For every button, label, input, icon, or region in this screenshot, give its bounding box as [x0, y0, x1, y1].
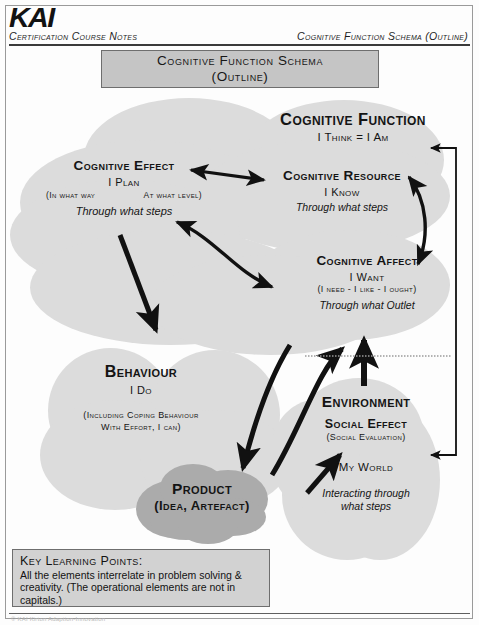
cognitive-resource-italic: Through what steps	[262, 201, 422, 214]
arrow-behaviour-product	[243, 345, 290, 468]
environment-my-world: My World	[292, 460, 440, 474]
connector-layer	[0, 0, 479, 625]
cognitive-resource-head: Cognitive Resource	[262, 168, 422, 184]
cognitive-affect-head: Cognitive Affect	[288, 253, 446, 269]
environment-italic-line-2: what steps	[292, 500, 440, 513]
cognitive-function-sub: I Think = I Am	[258, 130, 448, 144]
node-cognitive-effect: Cognitive Effect I Plan (In what way At …	[44, 158, 204, 218]
behaviour-sub: I Do	[58, 383, 224, 397]
cognitive-affect-italic: Through what Outlet	[288, 299, 446, 312]
environment-italic-line-1: Interacting through	[292, 487, 440, 500]
behaviour-paren-line-1: (Including Coping Behaviour	[58, 410, 224, 422]
arrow-effect-behaviour	[120, 235, 156, 330]
environment-social-effect: Social Effect	[292, 416, 440, 432]
footer-rule	[9, 613, 470, 614]
key-learning-points-title: Key Learning Points:	[20, 554, 263, 568]
node-environment: Environment Social Effect (Social Evalua…	[292, 392, 440, 513]
key-learning-points-body: All the elements interrelate in problem …	[20, 569, 263, 606]
environment-head: Environment	[292, 392, 440, 411]
cognitive-effect-sub: I Plan	[44, 175, 204, 189]
cognitive-resource-sub: I Know	[262, 185, 422, 199]
node-cognitive-affect: Cognitive Affect I Want (I need - I like…	[288, 253, 446, 312]
cognitive-effect-paren-left: (In what way	[46, 190, 95, 201]
cognitive-effect-head: Cognitive Effect	[44, 158, 204, 174]
cognitive-affect-paren: (I need - I like - I ought)	[288, 284, 446, 296]
arrow-effect-affect	[177, 222, 272, 287]
cognitive-effect-paren-right: At what level)	[144, 190, 202, 201]
node-behaviour: Behaviour I Do (Including Coping Behavio…	[58, 362, 224, 433]
behaviour-head: Behaviour	[58, 362, 224, 381]
schema-page: KAI Certification Course Notes Cognitive…	[0, 0, 479, 625]
environment-paren: (Social Evaluation)	[292, 432, 440, 444]
node-cognitive-resource: Cognitive Resource I Know Through what s…	[262, 168, 422, 214]
cognitive-effect-italic: Through what steps	[44, 204, 204, 218]
product-head: Product	[132, 479, 272, 498]
footer-text: © KAI Kirton Adaption-Innovation	[11, 616, 105, 622]
node-cognitive-function: Cognitive Function I Think = I Am	[258, 110, 448, 144]
key-learning-points-box: Key Learning Points: All the elements in…	[12, 549, 270, 607]
cognitive-affect-sub: I Want	[288, 270, 446, 284]
node-product: Product (Idea, Artefact)	[132, 479, 272, 514]
behaviour-paren-line-2: With Effort, I can)	[58, 422, 224, 434]
cognitive-function-head: Cognitive Function	[258, 110, 448, 129]
product-sub: (Idea, Artefact)	[132, 498, 272, 514]
